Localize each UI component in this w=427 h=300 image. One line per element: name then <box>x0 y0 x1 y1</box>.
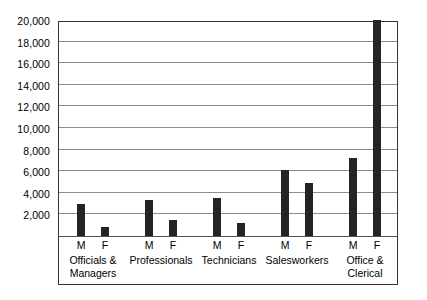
bar <box>169 220 177 236</box>
y-axis-tick-label: 2,000 <box>23 210 50 220</box>
bar <box>281 170 289 236</box>
bar <box>213 198 221 236</box>
bar <box>373 20 381 236</box>
y-axis-tick-label: 16,000 <box>17 59 50 69</box>
subgroup-label: M <box>281 239 290 251</box>
subgroup-label: F <box>374 239 380 251</box>
bar-chart: 2,0004,0006,0008,00010,00012,00014,00016… <box>0 0 427 300</box>
bar <box>145 200 153 236</box>
y-axis-tick-label: 20,000 <box>17 16 50 26</box>
category-label-band: MFMFMFMFMF Officials & ManagersProfessio… <box>58 237 398 285</box>
subgroup-label-row: MFMFMFMFMF <box>59 239 397 253</box>
bar <box>77 204 85 236</box>
subgroup-label: M <box>77 239 86 251</box>
plot-area <box>58 21 398 237</box>
y-axis-tick-label: 8,000 <box>23 146 50 156</box>
y-axis-tick-label: 14,000 <box>17 81 50 91</box>
y-axis-tick-label: 18,000 <box>17 38 50 48</box>
subgroup-label: M <box>349 239 358 251</box>
bar <box>237 223 245 236</box>
y-axis-tick-label: 12,000 <box>17 102 50 112</box>
subgroup-label: M <box>213 239 222 251</box>
category-label-row: Officials & ManagersProfessionalsTechnic… <box>59 254 397 284</box>
bar-series <box>59 22 397 236</box>
y-axis-tick-label: 4,000 <box>23 189 50 199</box>
y-axis: 2,0004,0006,0008,00010,00012,00014,00016… <box>0 0 56 300</box>
subgroup-label: M <box>145 239 154 251</box>
bar <box>349 158 357 236</box>
subgroup-label: F <box>170 239 176 251</box>
subgroup-label: F <box>238 239 244 251</box>
y-axis-tick-label: 6,000 <box>23 167 50 177</box>
bar <box>305 183 313 236</box>
bar <box>101 227 109 236</box>
subgroup-label: F <box>306 239 312 251</box>
y-axis-tick-label: 10,000 <box>17 124 50 134</box>
subgroup-label: F <box>102 239 108 251</box>
category-label: Office & Clerical <box>323 254 407 279</box>
